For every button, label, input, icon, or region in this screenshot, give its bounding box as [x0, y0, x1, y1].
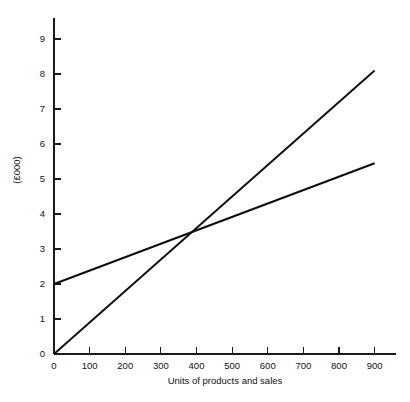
y-tick-label-4: 4: [40, 208, 45, 219]
chart-canvas: 0123456789 0100200300400500600700800900 …: [0, 0, 410, 402]
x-tick-label-200: 200: [117, 360, 133, 371]
y-tick-label-2: 2: [40, 278, 45, 289]
break-even-chart: 0123456789 0100200300400500600700800900 …: [0, 0, 410, 402]
total-cost-line: [54, 163, 375, 284]
data-series-group: [54, 71, 375, 355]
y-tick-label-0: 0: [40, 348, 45, 359]
x-tick-label-700: 700: [295, 360, 311, 371]
y-axis-tick-labels: 0123456789: [40, 33, 45, 359]
x-axis-tick-group: [90, 347, 375, 354]
x-tick-label-900: 900: [367, 360, 383, 371]
x-tick-label-500: 500: [224, 360, 240, 371]
y-tick-label-3: 3: [40, 243, 45, 254]
x-tick-label-0: 0: [51, 360, 56, 371]
y-tick-label-5: 5: [40, 173, 45, 184]
x-axis-title: Units of products and sales: [168, 375, 283, 386]
y-tick-label-9: 9: [40, 33, 45, 44]
y-tick-label-8: 8: [40, 68, 45, 79]
x-tick-label-600: 600: [260, 360, 276, 371]
y-axis-tick-group: [54, 39, 61, 319]
y-tick-label-1: 1: [40, 313, 45, 324]
y-axis-title: (£000): [11, 156, 22, 183]
x-tick-label-100: 100: [82, 360, 98, 371]
y-tick-label-7: 7: [40, 103, 45, 114]
x-tick-label-400: 400: [189, 360, 205, 371]
x-tick-label-800: 800: [331, 360, 347, 371]
sales-revenue-line: [54, 71, 375, 355]
x-axis-tick-labels: 0100200300400500600700800900: [51, 360, 382, 371]
x-tick-label-300: 300: [153, 360, 169, 371]
y-tick-label-6: 6: [40, 138, 45, 149]
